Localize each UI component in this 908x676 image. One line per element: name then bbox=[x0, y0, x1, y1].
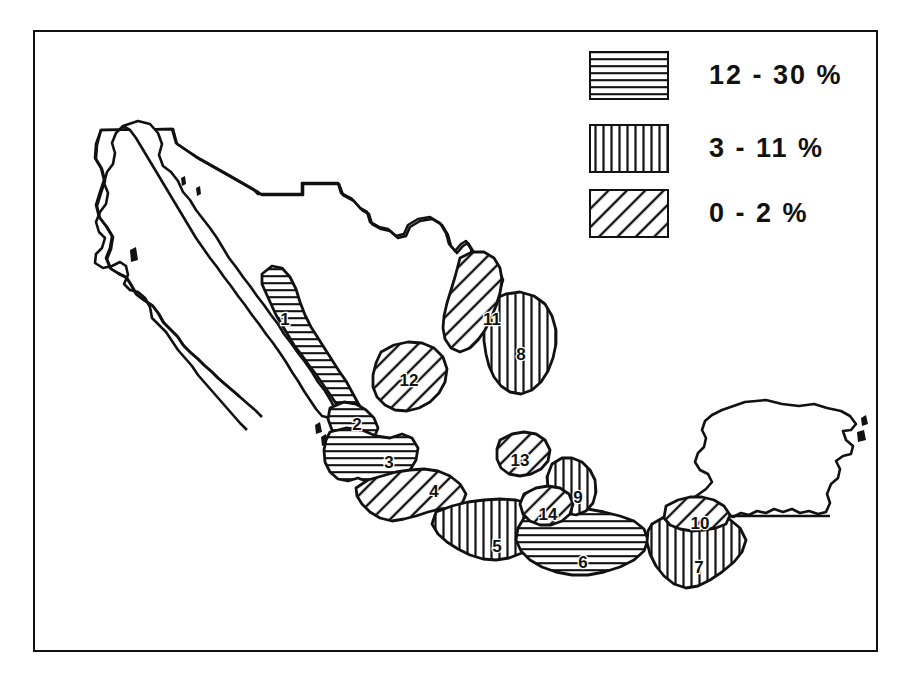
region-label-2: 2 bbox=[352, 415, 361, 434]
legend-label-1: 3 - 11 % bbox=[709, 133, 824, 164]
legend-item-1[interactable]: 3 - 11 % bbox=[589, 124, 824, 173]
region-label-1: 1 bbox=[280, 310, 289, 329]
legend-swatch-diagonal-lines bbox=[589, 189, 669, 238]
island-dot-3 bbox=[130, 247, 138, 262]
figure-root: 1 2 3 4 5 6 7 8 9 10 11 12 13 14 12 - 30… bbox=[0, 0, 908, 676]
legend-item-0[interactable]: 12 - 30 % bbox=[589, 51, 843, 100]
yucatan-islet-2 bbox=[857, 430, 866, 442]
region-label-11: 11 bbox=[483, 310, 501, 329]
region-label-9: 9 bbox=[573, 488, 582, 507]
region-label-7: 7 bbox=[694, 558, 703, 577]
region-label-8: 8 bbox=[516, 345, 525, 364]
legend-item-2[interactable]: 0 - 2 % bbox=[589, 189, 809, 238]
region-label-6: 6 bbox=[578, 553, 587, 572]
region-label-14: 14 bbox=[539, 505, 558, 524]
region-label-13: 13 bbox=[511, 451, 530, 470]
region-label-3: 3 bbox=[384, 453, 393, 472]
region-label-4: 4 bbox=[429, 482, 439, 501]
legend-swatch-vertical-lines bbox=[589, 124, 669, 173]
region-label-10: 10 bbox=[691, 514, 710, 533]
region-label-5: 5 bbox=[492, 537, 501, 556]
legend-label-0: 12 - 30 % bbox=[709, 60, 843, 91]
legend-swatch-horizontal-lines bbox=[589, 51, 669, 100]
yucatan-islet bbox=[861, 415, 868, 426]
region-label-12: 12 bbox=[400, 371, 419, 390]
mexico-map: 1 2 3 4 5 6 7 8 9 10 11 12 13 14 bbox=[0, 0, 908, 676]
legend-label-2: 0 - 2 % bbox=[709, 198, 809, 229]
